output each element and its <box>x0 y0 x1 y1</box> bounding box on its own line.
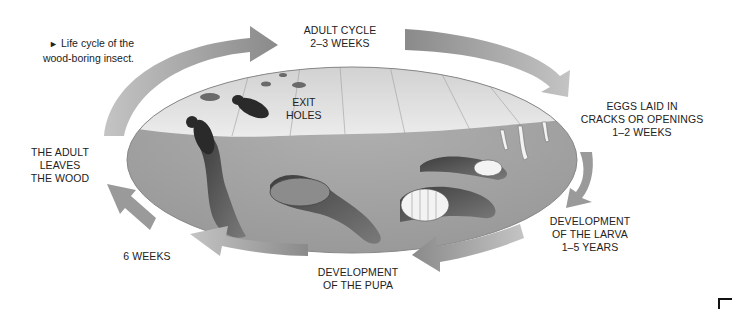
larva-line-2: OF THE LARVA <box>540 228 640 241</box>
adult-cycle-duration: 2–3 WEEKS <box>290 37 390 50</box>
larva-large <box>401 189 449 221</box>
pupa <box>270 178 330 206</box>
larva-small <box>474 160 502 176</box>
adult-leaves-line-1: THE ADULT <box>20 146 100 159</box>
label-adult-cycle: ADULT CYCLE 2–3 WEEKS <box>290 24 390 50</box>
six-weeks-duration: 6 WEEKS <box>112 250 182 263</box>
adult-leaves-line-3: THE WOOD <box>20 172 100 185</box>
exit-holes-line-2: HOLES <box>286 109 322 122</box>
pupa-line-2: OF THE PUPA <box>308 279 408 292</box>
eggs-line-1: EGGS LAID IN <box>572 100 712 113</box>
eggs-line-2: CRACKS OR OPENINGS <box>572 113 712 126</box>
pupa-line-1: DEVELOPMENT <box>308 266 408 279</box>
adult-cycle-title: ADULT CYCLE <box>290 24 390 37</box>
label-larva: DEVELOPMENT OF THE LARVA 1–5 YEARS <box>540 215 640 254</box>
larva-duration: 1–5 YEARS <box>540 241 640 254</box>
label-six-weeks: 6 WEEKS <box>112 250 182 263</box>
label-pupa: DEVELOPMENT OF THE PUPA <box>308 266 408 292</box>
caption-line-2: wood-boring insect. <box>16 51 134 65</box>
life-cycle-diagram: ►Life cycle of the wood-boring insect. A… <box>0 0 732 309</box>
larva-line-1: DEVELOPMENT <box>540 215 640 228</box>
crop-mark <box>718 298 732 309</box>
label-eggs: EGGS LAID IN CRACKS OR OPENINGS 1–2 WEEK… <box>572 100 712 139</box>
adult-leaves-line-2: LEAVES <box>20 159 100 172</box>
figure-caption: ►Life cycle of the wood-boring insect. <box>16 36 134 65</box>
caption-marker-icon: ► <box>49 39 58 49</box>
eggs-duration: 1–2 WEEKS <box>572 126 712 139</box>
caption-line-1: Life cycle of the <box>61 37 134 49</box>
exit-holes-line-1: EXIT <box>286 96 322 109</box>
label-exit-holes: EXIT HOLES <box>286 96 322 122</box>
label-adult-leaves: THE ADULT LEAVES THE WOOD <box>20 146 100 185</box>
